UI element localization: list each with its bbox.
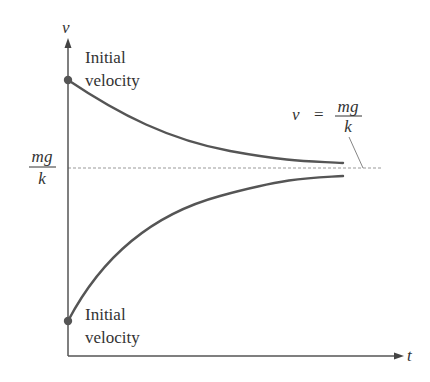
upper-label-line2: velocity [85, 71, 140, 90]
left-fraction-denominator: k [38, 169, 46, 188]
lower-label-line2: velocity [85, 328, 140, 347]
lower-initial-dot [64, 317, 72, 325]
y-axis-arrow-icon [65, 38, 72, 48]
x-axis-arrow-icon [394, 353, 404, 360]
right-label-v: v [292, 105, 300, 124]
left-fraction-numerator: mg [32, 147, 53, 166]
right-fraction-denominator: k [344, 117, 352, 136]
lower-curve [68, 176, 343, 321]
right-label-equals: = [314, 105, 324, 124]
upper-label-line1: Initial [85, 48, 126, 67]
y-axis-label: v [62, 18, 70, 37]
upper-initial-dot [64, 76, 72, 84]
lower-label-line1: Initial [85, 305, 126, 324]
right-fraction-numerator: mg [338, 97, 359, 116]
velocity-diagram: v t mg k v = mg k Initial velocity Initi… [0, 0, 430, 382]
upper-curve [68, 80, 343, 163]
label-leader-line [349, 137, 363, 168]
x-axis-label: t [407, 346, 413, 365]
